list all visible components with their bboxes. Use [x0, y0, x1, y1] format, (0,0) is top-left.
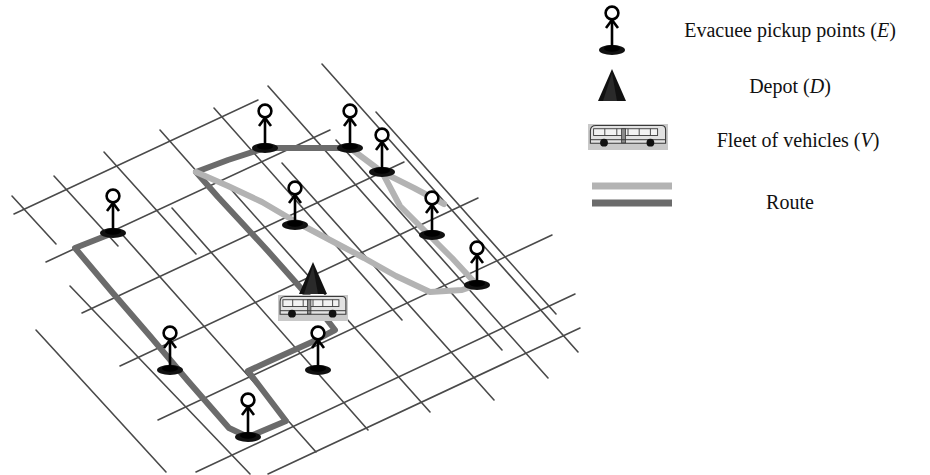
grid-line-b-4: [322, 64, 578, 352]
bus-wheel-rear: [329, 310, 337, 318]
legend-label-fleet: Fleet of vehicles (V): [717, 129, 880, 152]
legend-label-route: Route: [766, 191, 814, 213]
triangle-depot-icon: [299, 262, 327, 294]
figure-canvas: Evacuee pickup points (E)Depot (D)Fleet …: [0, 0, 930, 475]
bus-wheel-front: [288, 310, 296, 318]
vehicle-marker-group: [278, 295, 348, 321]
stick-figure-icon-pickup-4: [369, 129, 395, 177]
legend-label-tail-depot: ): [824, 75, 831, 98]
street-grid: [12, 64, 580, 474]
stick-figure-icon-pickup-10: [235, 394, 261, 442]
diagram-svg: Evacuee pickup points (E)Depot (D)Fleet …: [0, 0, 930, 475]
bus-door: [307, 300, 311, 314]
evacuee-pickup-markers: [100, 105, 490, 442]
legend-label-depot: Depot (D): [749, 75, 831, 98]
bus-icon-map: [278, 295, 348, 321]
legend-label-main-route: Route: [766, 191, 814, 213]
legend: Evacuee pickup points (E)Depot (D)Fleet …: [588, 7, 896, 213]
grid-line-a-5: [196, 294, 575, 472]
bus-icon-legend: [588, 124, 668, 150]
legend-label-symbol-depot: D: [809, 75, 825, 97]
depot-marker-group: [299, 262, 327, 294]
grid-line-b-9: [70, 286, 250, 474]
legend-label-symbol-evacuee: E: [876, 19, 889, 41]
grid-line-b-6: [12, 196, 56, 244]
legend-label-evacuee: Evacuee pickup points (E): [684, 19, 896, 42]
legend-label-tail-evacuee: ): [889, 19, 896, 42]
grid-line-b-10: [36, 330, 166, 472]
bus-door: [622, 129, 626, 143]
legend-label-main-fleet: Fleet of vehicles (: [717, 129, 861, 152]
stick-figure-icon-pickup-2: [252, 105, 278, 153]
stick-figure-icon-pickup-1: [100, 190, 126, 238]
legend-triangle-depot-icon: [598, 69, 626, 101]
legend-label-main-depot: Depot (: [749, 75, 810, 98]
grid-line-a-6: [268, 328, 580, 474]
bus-wheel-rear: [647, 139, 655, 147]
legend-label-main-evacuee: Evacuee pickup points (: [684, 19, 877, 42]
stick-figure-icon-pickup-3: [337, 105, 363, 153]
legend-label-tail-fleet: ): [873, 129, 880, 152]
legend-stick-figure-icon: [599, 7, 625, 55]
grid-line-b-0: [104, 152, 196, 254]
bus-wheel-front: [600, 139, 608, 147]
